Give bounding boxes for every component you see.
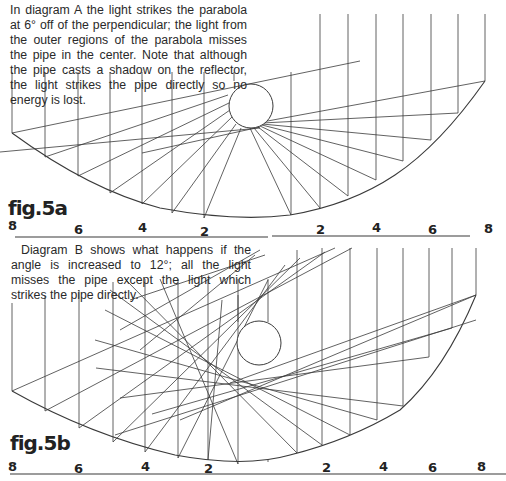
caption-diagram-a: In diagram A the light strikes the parab… (10, 3, 247, 108)
scale-a-tick: 6 (74, 222, 83, 237)
scale-b-tick: 8 (477, 459, 486, 474)
scale-a-tick: 4 (138, 220, 147, 235)
scale-a-tick: 4 (372, 220, 381, 235)
scale-a-tick: 6 (428, 222, 437, 237)
caption-diagram-b: Diagram B shows what happens if the angl… (11, 243, 251, 303)
scale-b-tick: 4 (379, 459, 388, 474)
scale-a-tick: 2 (200, 224, 209, 239)
scale-b-tick: 6 (428, 460, 437, 475)
scale-b-tick: 2 (322, 460, 331, 475)
scale-b-tick: 8 (8, 459, 17, 474)
scale-b-tick: 6 (74, 461, 83, 476)
scale-b-tick: 2 (204, 461, 213, 476)
figure-label-5b: fig.5b (10, 431, 70, 455)
scale-a-tick: 2 (316, 222, 325, 237)
figure-label-5a: fig.5a (8, 196, 67, 220)
scale-b-tick: 4 (141, 459, 150, 474)
scale-a-tick: 8 (484, 221, 493, 236)
pipe-b (237, 321, 281, 365)
scale-a-tick: 8 (8, 218, 17, 233)
